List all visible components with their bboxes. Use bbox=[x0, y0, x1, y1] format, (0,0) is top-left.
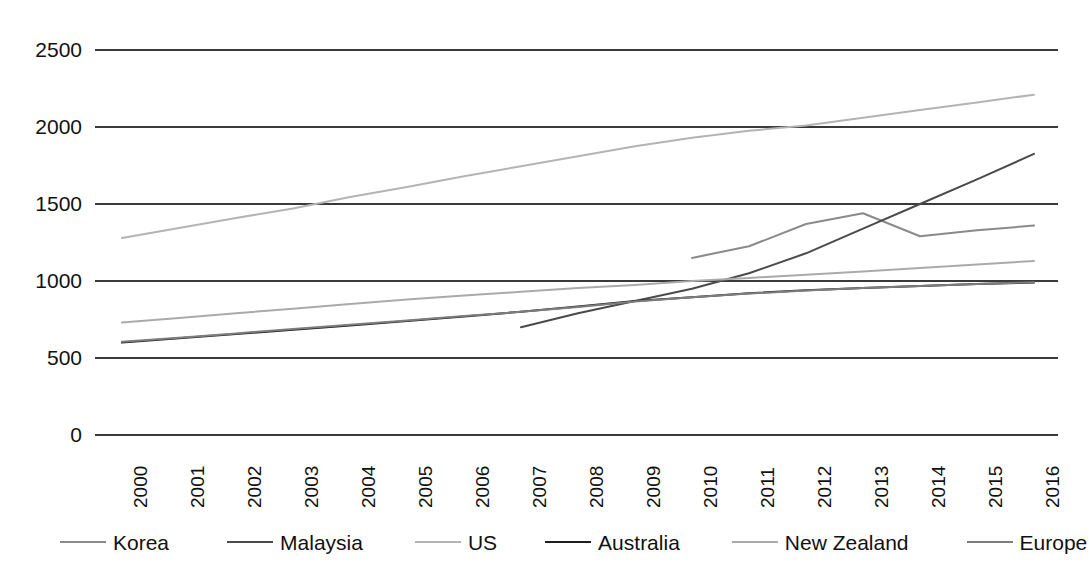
y-tick-label-0: 0 bbox=[0, 424, 82, 445]
legend-swatch-europe bbox=[967, 541, 1013, 543]
y-tick-label-2500: 2500 bbox=[0, 39, 82, 60]
x-tick-label-2000: 2000 bbox=[131, 466, 150, 508]
legend-item-malaysia[interactable]: Malaysia bbox=[227, 532, 363, 553]
legend-label: US bbox=[468, 532, 497, 553]
x-tick-label-2004: 2004 bbox=[359, 466, 378, 508]
x-tick-label-2013: 2013 bbox=[872, 466, 891, 508]
x-tick-label-2016: 2016 bbox=[1043, 466, 1062, 508]
x-tick-label-2009: 2009 bbox=[644, 466, 663, 508]
legend-label: New Zealand bbox=[785, 532, 909, 553]
legend-item-korea[interactable]: Korea bbox=[60, 532, 169, 553]
y-tick-label-1000: 1000 bbox=[0, 270, 82, 291]
legend-item-us[interactable]: US bbox=[415, 532, 497, 553]
x-tick-label-2007: 2007 bbox=[530, 466, 549, 508]
legend-item-europe[interactable]: Europe bbox=[967, 532, 1088, 553]
x-tick-label-2014: 2014 bbox=[929, 466, 948, 508]
legend-swatch-malaysia bbox=[227, 541, 273, 543]
legend-label: Malaysia bbox=[280, 532, 363, 553]
x-tick-label-2012: 2012 bbox=[815, 466, 834, 508]
x-tick-label-2003: 2003 bbox=[302, 466, 321, 508]
legend-label: Australia bbox=[598, 532, 680, 553]
y-tick-label-2000: 2000 bbox=[0, 116, 82, 137]
legend-swatch-korea bbox=[60, 541, 106, 543]
y-tick-label-1500: 1500 bbox=[0, 193, 82, 214]
legend-label: Europe bbox=[1020, 532, 1088, 553]
x-tick-label-2015: 2015 bbox=[986, 466, 1005, 508]
x-tick-label-2002: 2002 bbox=[245, 466, 264, 508]
legend-swatch-us bbox=[415, 541, 461, 543]
legend-swatch-australia bbox=[545, 541, 591, 543]
legend-label: Korea bbox=[113, 532, 169, 553]
legend-item-new-zealand[interactable]: New Zealand bbox=[732, 532, 909, 553]
x-tick-label-2001: 2001 bbox=[188, 466, 207, 508]
x-tick-label-2010: 2010 bbox=[701, 466, 720, 508]
x-tick-label-2008: 2008 bbox=[587, 466, 606, 508]
x-tick-label-2011: 2011 bbox=[758, 467, 777, 508]
legend-item-australia[interactable]: Australia bbox=[545, 532, 680, 553]
series-line-korea bbox=[692, 213, 1034, 258]
x-tick-label-2006: 2006 bbox=[473, 466, 492, 508]
series-line-us bbox=[122, 95, 1034, 238]
x-tick-label-2005: 2005 bbox=[416, 466, 435, 508]
legend-swatch-new-zealand bbox=[732, 541, 778, 543]
chart-legend: KoreaMalaysiaUSAustraliaNew ZealandEurop… bbox=[60, 524, 1050, 560]
line-chart: 05001000150020002500 2000200120022003200… bbox=[0, 0, 1089, 582]
series-line-malaysia bbox=[521, 154, 1034, 327]
y-tick-label-500: 500 bbox=[0, 347, 82, 368]
